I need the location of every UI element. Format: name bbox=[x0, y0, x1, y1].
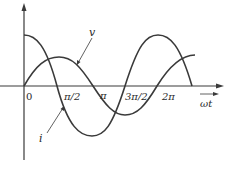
x-axis-arrow-icon bbox=[216, 84, 224, 89]
tick-3pi-over-2: 3π/2 bbox=[125, 91, 148, 102]
tick-pi-over-2: π/2 bbox=[63, 91, 80, 102]
waveform-svg: v i 0 π/2 π 3π/2 2π ωt bbox=[0, 0, 230, 169]
v-pointer-arrow-icon bbox=[77, 60, 81, 65]
tick-0: 0 bbox=[26, 91, 32, 102]
omega-t-arrow-icon bbox=[213, 92, 219, 96]
curve-i-label: i bbox=[39, 132, 43, 145]
tick-2pi: 2π bbox=[161, 91, 175, 102]
x-axis-label: ωt bbox=[200, 98, 213, 109]
waveform-diagram: v i 0 π/2 π 3π/2 2π ωt bbox=[0, 0, 230, 169]
i-pointer-arrow-icon bbox=[61, 106, 65, 111]
curve-v-label: v bbox=[89, 26, 96, 39]
v-pointer-line bbox=[78, 38, 92, 63]
tick-pi: π bbox=[99, 90, 107, 101]
i-pointer-line bbox=[47, 108, 63, 133]
y-axis-arrow-icon bbox=[22, 3, 27, 11]
